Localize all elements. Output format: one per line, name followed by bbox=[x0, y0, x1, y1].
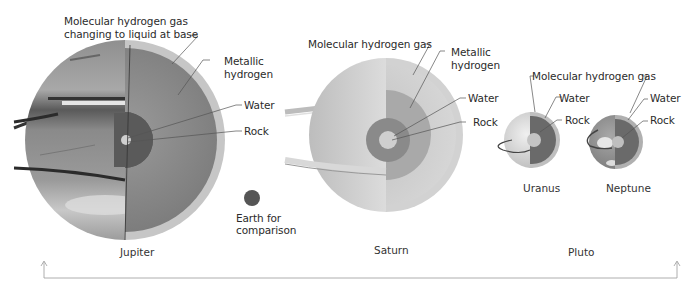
neptune-water-label: Water bbox=[650, 92, 681, 104]
neptune-rock-label: Rock bbox=[650, 114, 675, 126]
jupiter-outer-label-line2: changing to liquid at base bbox=[64, 28, 198, 40]
earth-label-line1: Earth for bbox=[236, 212, 281, 224]
saturn-metallic-label-line1: Metallic bbox=[451, 46, 491, 58]
jupiter-rock-label: Rock bbox=[244, 125, 269, 137]
shared-outer-label: Molecular hydrogen gas bbox=[532, 70, 656, 82]
planet-interiors-diagram: Molecular hydrogen gas changing to liqui… bbox=[0, 0, 688, 288]
jupiter-metallic-label-line2: hydrogen bbox=[224, 68, 273, 80]
scale-axis bbox=[41, 261, 680, 278]
jupiter-outer-label-line1: Molecular hydrogen gas bbox=[64, 15, 188, 27]
jupiter-name: Jupiter bbox=[120, 246, 154, 258]
jupiter-water-label: Water bbox=[244, 99, 275, 111]
uranus-water-label: Water bbox=[559, 92, 590, 104]
saturn-planet bbox=[285, 58, 463, 212]
saturn-rock-label: Rock bbox=[473, 116, 498, 128]
saturn-outer-label: Molecular hydrogen gas bbox=[308, 38, 432, 50]
saturn-metallic-label-line2: hydrogen bbox=[451, 59, 500, 71]
neptune-name: Neptune bbox=[606, 182, 651, 194]
uranus-planet bbox=[498, 112, 560, 168]
uranus-rock-label: Rock bbox=[565, 114, 590, 126]
earth-comparison-dot bbox=[244, 190, 260, 206]
saturn-name: Saturn bbox=[374, 244, 409, 256]
jupiter-metallic-label-line1: Metallic bbox=[224, 55, 264, 67]
jupiter-planet bbox=[14, 40, 225, 240]
earth-label-line2: comparison bbox=[236, 224, 296, 236]
saturn-water-label: Water bbox=[468, 92, 499, 104]
neptune-planet bbox=[587, 115, 643, 169]
pluto-marker-label: Pluto bbox=[568, 246, 594, 258]
uranus-name: Uranus bbox=[523, 182, 560, 194]
